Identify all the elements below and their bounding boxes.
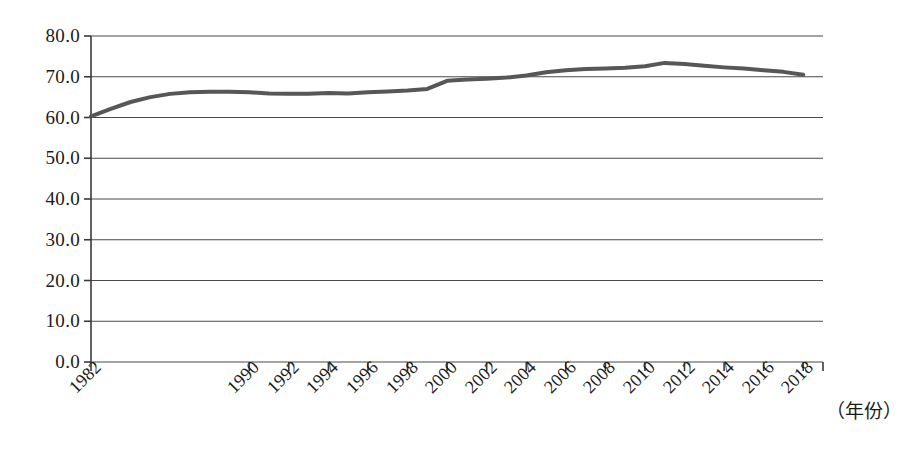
x-axis-tick-label: 2000	[421, 357, 462, 398]
chart-page: 0.010.020.030.040.050.060.070.080.0 1982…	[0, 0, 901, 468]
x-axis-tick-label: 1996	[342, 357, 383, 398]
x-axis-tick-label: 1982	[65, 357, 106, 398]
x-axis-tick-label: 2014	[698, 357, 739, 398]
x-axis-title: （年份）	[826, 396, 901, 423]
x-axis-tick-label: 1992	[263, 357, 304, 398]
x-axis-tick-label: 1998	[382, 357, 423, 398]
x-axis-tick-label: 2018	[777, 357, 818, 398]
x-axis-tick-label: 1994	[302, 357, 343, 398]
x-axis-tick-label: 2010	[619, 357, 660, 398]
x-axis-tick-label: 2004	[500, 357, 541, 398]
x-axis-tick-label: 2002	[461, 357, 502, 398]
x-axis-tick-label: 2012	[659, 357, 700, 398]
x-axis-tick-label: 1990	[223, 357, 264, 398]
x-axis-tick-label: 2008	[579, 357, 620, 398]
x-axis-labels: 1982199019921994199619982000200220042006…	[0, 0, 901, 468]
x-axis-tick-label: 2016	[738, 357, 779, 398]
x-axis-tick-label: 2006	[540, 357, 581, 398]
